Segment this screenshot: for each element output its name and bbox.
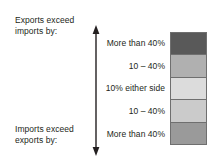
- legend-class-label-list: More than 40% 10 – 40% 10% either side 1…: [100, 32, 168, 145]
- legend-row: More than 40%: [100, 32, 168, 55]
- legend-color-swatch-column: [170, 32, 207, 145]
- legend-color-swatch: [171, 100, 206, 122]
- trade-balance-legend: Exports exceed imports by: More than 40%…: [0, 0, 218, 166]
- legend-row: More than 40%: [100, 122, 168, 145]
- legend-color-swatch: [171, 55, 206, 77]
- legend-row: 10% either side: [100, 77, 168, 100]
- legend-class-label: 10 – 40%: [129, 106, 165, 116]
- legend-class-label: More than 40%: [107, 129, 165, 139]
- legend-color-swatch: [171, 33, 206, 55]
- legend-class-label: More than 40%: [107, 38, 165, 48]
- legend-row: 10 – 40%: [100, 55, 168, 78]
- legend-class-label: 10 – 40%: [129, 61, 165, 71]
- legend-class-label: 10% either side: [106, 83, 165, 93]
- legend-row: 10 – 40%: [100, 100, 168, 123]
- imports-exceed-exports-note: Imports exceed exports by:: [15, 124, 74, 145]
- legend-color-swatch: [171, 123, 206, 144]
- exports-exceed-imports-note: Exports exceed imports by:: [15, 15, 74, 36]
- legend-color-swatch: [171, 78, 206, 100]
